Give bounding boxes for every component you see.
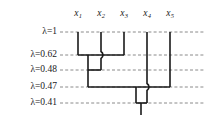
leaf-label-x3-name: x (120, 8, 124, 18)
leaf-stem-x4 (147, 32, 149, 103)
leaf-label-x3-index: 3 (125, 12, 128, 19)
leaf-label-x2-name: x (97, 8, 101, 18)
leaf-label-x5-index: 5 (171, 12, 174, 19)
lambda-label-level-0-62: λ=0.62 (30, 49, 57, 59)
lambda-label-level-1: λ=1 (42, 26, 57, 36)
leaf-label-x4-name: x (143, 8, 147, 18)
leaf-label-x5: x5 (166, 8, 173, 18)
lambda-label-level-0-48: λ=0.48 (30, 64, 57, 74)
leaf-stem-x2 (101, 32, 103, 70)
leaf-label-x1-name: x (74, 8, 78, 18)
leaf-label-x5-name: x (166, 8, 170, 18)
dendrogram-figure: λ=1 λ=0.62 λ=0.48 λ=0.47 λ=0.41 x1 x2 x3… (0, 0, 207, 117)
leaf-label-x1: x1 (74, 8, 81, 18)
leaf-label-x1-index: 1 (79, 12, 82, 19)
leaf-label-x4: x4 (143, 8, 150, 18)
leaf-label-x4-index: 4 (148, 12, 151, 19)
leaf-label-x2: x2 (97, 8, 104, 18)
leaf-label-x3: x3 (120, 8, 127, 18)
lambda-label-level-0-47: λ=0.47 (30, 81, 57, 91)
leaf-label-x2-index: 2 (102, 12, 105, 19)
lambda-label-level-0-41: λ=0.41 (30, 97, 57, 107)
gridlines (60, 32, 204, 103)
